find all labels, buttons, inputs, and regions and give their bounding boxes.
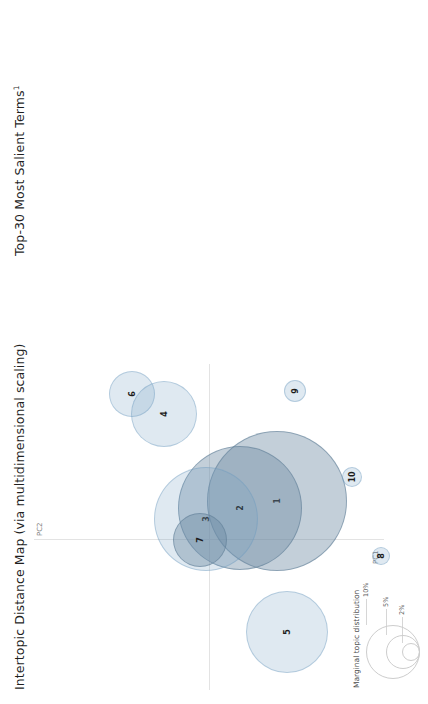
- intertopic-distance-panel: Intertopic Distance Map (via multidimens…: [0, 352, 428, 704]
- marginal-topic-distribution-legend: Marginal topic distribution 2%5%10%: [352, 518, 424, 688]
- marginal-tick-10%: [366, 599, 367, 625]
- marginal-pct-label-5%: 5%: [382, 597, 390, 607]
- topic-bubble-label-7: 7: [196, 537, 205, 543]
- topic-bubble-label-10: 10: [348, 471, 357, 482]
- topic-bubble-label-6: 6: [128, 391, 137, 397]
- bar-chart-title-superscript: 1: [12, 85, 21, 90]
- topic-bubble-label-9: 9: [291, 388, 300, 394]
- pc2-axis-label: PC2: [36, 522, 44, 536]
- ldavis-poster: Intertopic Distance Map (via multidimens…: [0, 0, 428, 704]
- intertopic-map-title: Intertopic Distance Map (via multidimens…: [12, 344, 27, 690]
- marginal-pct-label-2%: 2%: [398, 605, 406, 615]
- marginal-pct-label-10%: 10%: [362, 583, 370, 597]
- intertopic-scatter[interactable]: PC2 PC1 12374659108: [34, 364, 384, 690]
- salient-terms-panel: Top-30 Most Salient Terms1 05001,0001,50…: [0, 0, 428, 352]
- bar-chart-title-text: Top-30 Most Salient Terms: [12, 90, 27, 256]
- bar-chart-title: Top-30 Most Salient Terms1: [12, 85, 27, 256]
- topic-bubble-label-4: 4: [160, 411, 169, 417]
- marginal-legend-title: Marginal topic distribution: [352, 590, 361, 688]
- marginal-ring-10%: [366, 625, 420, 679]
- topic-bubble-label-5: 5: [283, 629, 292, 635]
